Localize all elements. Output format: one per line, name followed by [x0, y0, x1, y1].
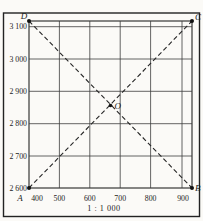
survey-plot-figure: D C A B O 3 100 3 000 2 900 2 800 2 700 … — [0, 0, 203, 221]
y-tick-2800: 2 800 — [9, 119, 27, 128]
point-o-label: O — [115, 101, 122, 111]
point-b-label: B — [195, 183, 201, 193]
x-tick-600: 600 — [84, 194, 96, 203]
y-tick-3000: 3 000 — [9, 55, 27, 64]
y-tick-2900: 2 900 — [9, 87, 27, 96]
point-c-label: C — [195, 12, 202, 22]
point-a-dot — [27, 186, 31, 190]
map-scale-label: 1 : 1 000 — [87, 204, 120, 213]
x-tick-400: 400 — [31, 194, 43, 203]
x-tick-800: 800 — [145, 194, 157, 203]
point-b-dot — [190, 186, 194, 190]
point-d-label: D — [20, 11, 28, 21]
coordinate-grid-chart: D C A B O 3 100 3 000 2 900 2 800 2 700 … — [0, 0, 203, 221]
x-tick-900: 900 — [177, 194, 189, 203]
y-tick-2600: 2 600 — [9, 184, 27, 193]
y-tick-3100: 3 100 — [9, 22, 27, 31]
horizontal-gridlines — [29, 27, 192, 156]
x-tick-500: 500 — [54, 194, 66, 203]
point-o-dot — [109, 104, 113, 108]
x-tick-700: 700 — [114, 194, 126, 203]
point-d-dot — [27, 19, 31, 23]
point-c-dot — [190, 19, 194, 23]
point-a-label: A — [16, 193, 23, 203]
y-tick-2700: 2 700 — [9, 152, 27, 161]
